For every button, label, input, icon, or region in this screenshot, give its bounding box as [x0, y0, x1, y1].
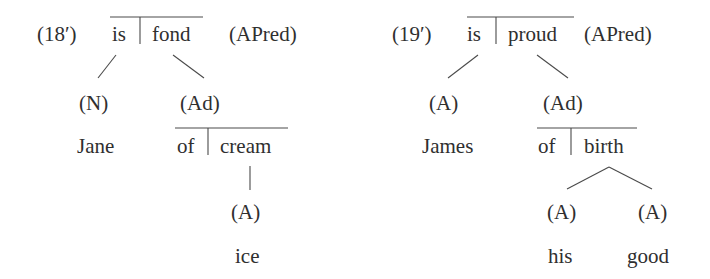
node-category: (A): [547, 202, 576, 223]
node-category: (Ad): [180, 93, 220, 114]
node-category: (Ad): [543, 93, 583, 114]
ad-head: of: [538, 136, 556, 157]
edge-proud-to-Ad: [537, 55, 568, 78]
node-word: good: [627, 246, 669, 267]
example-label: (19′): [392, 24, 432, 45]
node-category: (A): [429, 93, 458, 114]
node-category: (N): [79, 93, 108, 114]
dependency-diagram: (18′) is fond (APred) (N) (Ad) Jane of c…: [0, 0, 710, 279]
edge-birth-to-his: [567, 167, 609, 189]
node-category: (A): [231, 202, 260, 223]
node-word: his: [548, 246, 573, 267]
root-category: (APred): [584, 24, 652, 45]
ad-complement: birth: [584, 136, 624, 157]
node-word: ice: [235, 246, 259, 267]
root-head: is: [112, 24, 126, 45]
root-head: is: [467, 24, 481, 45]
node-category: (A): [638, 202, 667, 223]
node-word: James: [422, 136, 473, 157]
edge-birth-to-good: [609, 167, 652, 189]
edge-fond-to-Ad: [173, 55, 204, 78]
edge-is-to-N: [98, 55, 116, 78]
edge-is-to-A: [448, 55, 478, 78]
ad-complement: cream: [220, 136, 271, 157]
root-complement: proud: [508, 24, 557, 45]
node-word: Jane: [77, 136, 114, 157]
root-complement: fond: [152, 24, 191, 45]
example-label: (18′): [37, 24, 77, 45]
ad-head: of: [177, 136, 195, 157]
root-category: (APred): [229, 24, 297, 45]
